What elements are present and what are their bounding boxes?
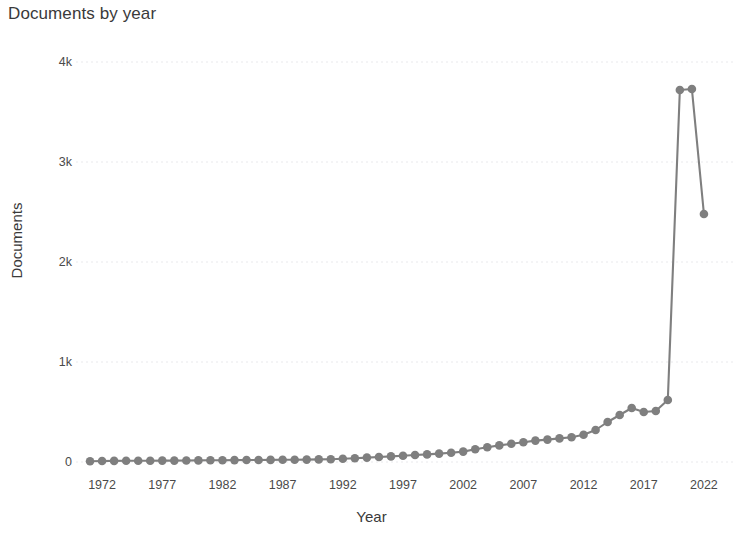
- data-point[interactable]: [351, 454, 360, 463]
- y-tick-label: 4k: [34, 55, 72, 69]
- data-point[interactable]: [218, 456, 227, 465]
- data-point[interactable]: [254, 456, 263, 465]
- x-axis-label: Year: [0, 508, 743, 525]
- data-point[interactable]: [676, 86, 685, 95]
- line-chart-svg: [0, 0, 743, 541]
- y-tick-label: 1k: [34, 355, 72, 369]
- data-point[interactable]: [314, 455, 323, 464]
- data-point[interactable]: [471, 445, 480, 454]
- data-point[interactable]: [543, 435, 552, 444]
- data-point[interactable]: [158, 456, 167, 465]
- x-tick-label: 1972: [88, 478, 116, 492]
- data-point[interactable]: [363, 453, 372, 462]
- data-point[interactable]: [651, 407, 660, 416]
- data-point[interactable]: [86, 457, 95, 466]
- x-axis-ticks: 1972197719821987199219972002200720122017…: [0, 478, 743, 502]
- y-axis-ticks: 01k2k3k4k: [28, 0, 72, 541]
- x-tick-label: 2002: [449, 478, 477, 492]
- data-point[interactable]: [182, 456, 191, 465]
- data-point[interactable]: [170, 456, 179, 465]
- data-point[interactable]: [110, 457, 119, 466]
- data-point[interactable]: [375, 453, 384, 462]
- data-point[interactable]: [278, 456, 287, 465]
- data-point[interactable]: [122, 457, 131, 466]
- data-point[interactable]: [435, 449, 444, 458]
- x-tick-label: 2022: [690, 478, 718, 492]
- data-point[interactable]: [688, 85, 697, 94]
- data-point[interactable]: [555, 434, 564, 443]
- y-tick-label: 2k: [34, 255, 72, 269]
- x-tick-label: 2017: [630, 478, 658, 492]
- data-point[interactable]: [146, 456, 155, 465]
- data-point[interactable]: [615, 411, 624, 420]
- data-point[interactable]: [266, 456, 275, 465]
- x-tick-label: 1987: [269, 478, 297, 492]
- x-tick-label: 1997: [389, 478, 417, 492]
- x-tick-label: 1992: [329, 478, 357, 492]
- data-point[interactable]: [230, 456, 239, 465]
- y-tick-label: 0: [34, 455, 72, 469]
- data-point[interactable]: [302, 455, 311, 464]
- data-point[interactable]: [411, 451, 420, 460]
- data-point[interactable]: [627, 404, 636, 413]
- data-point[interactable]: [290, 455, 299, 464]
- data-point[interactable]: [495, 441, 504, 450]
- data-point[interactable]: [639, 408, 648, 417]
- data-point[interactable]: [194, 456, 203, 465]
- data-point[interactable]: [507, 440, 516, 449]
- data-point[interactable]: [483, 443, 492, 452]
- data-point[interactable]: [339, 455, 348, 464]
- data-point[interactable]: [591, 426, 600, 435]
- data-markers: [86, 85, 708, 466]
- data-point[interactable]: [567, 433, 576, 442]
- gridlines: [76, 62, 734, 462]
- x-tick-label: 2012: [570, 478, 598, 492]
- x-tick-label: 1977: [148, 478, 176, 492]
- data-point[interactable]: [579, 431, 588, 440]
- data-point[interactable]: [242, 456, 251, 465]
- data-point[interactable]: [603, 418, 612, 427]
- data-point[interactable]: [134, 457, 143, 466]
- data-point[interactable]: [326, 455, 335, 464]
- data-point[interactable]: [447, 449, 456, 458]
- data-point[interactable]: [98, 457, 107, 466]
- data-point[interactable]: [399, 452, 408, 461]
- data-point[interactable]: [700, 210, 709, 219]
- y-axis-label: Documents: [8, 181, 25, 301]
- data-point[interactable]: [519, 438, 528, 447]
- data-point[interactable]: [387, 452, 396, 461]
- x-tick-label: 2007: [509, 478, 537, 492]
- data-point[interactable]: [206, 456, 215, 465]
- data-point[interactable]: [664, 396, 673, 405]
- chart-container: Documents by year 01k2k3k4k 197219771982…: [0, 0, 743, 541]
- x-tick-label: 1982: [209, 478, 237, 492]
- data-point[interactable]: [531, 436, 540, 445]
- data-point[interactable]: [423, 450, 432, 459]
- data-line: [90, 89, 704, 461]
- plot-area: [0, 0, 743, 541]
- y-tick-label: 3k: [34, 155, 72, 169]
- data-point[interactable]: [459, 447, 468, 456]
